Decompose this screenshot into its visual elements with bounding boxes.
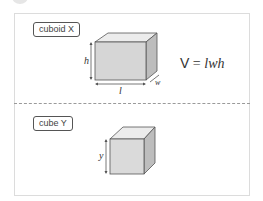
height-dimension xyxy=(90,42,93,80)
length-label: l xyxy=(119,85,122,96)
cuboid-x-shape xyxy=(95,33,157,80)
height-label: h xyxy=(84,55,89,66)
cube-y-shape xyxy=(110,127,155,174)
side-label: y xyxy=(98,150,104,161)
side-dimension xyxy=(105,139,108,174)
width-label: w xyxy=(155,78,161,87)
shapes-canvas: h l w y xyxy=(0,0,263,201)
